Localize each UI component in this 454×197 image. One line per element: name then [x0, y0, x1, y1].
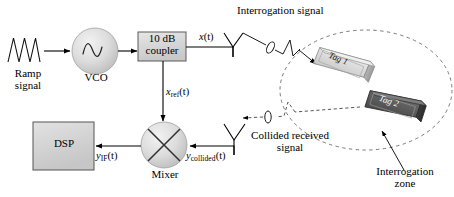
signal-xref-arg: (t): [179, 86, 189, 97]
signal-yif-arg: (t): [108, 150, 118, 161]
coupler-line1: 10 dB: [138, 33, 186, 45]
dsp-label: DSP: [47, 138, 81, 150]
collided-received-signal-label: Collided received signal: [238, 130, 342, 153]
collided-received-line1: Collided received: [238, 130, 342, 142]
signal-yif-of-t: yIF(t): [96, 150, 117, 163]
signal-ycollided-arg: (t): [216, 150, 226, 161]
interrogation-zone-line2: zone: [360, 178, 450, 190]
signal-x-of-t: x(t): [199, 31, 214, 42]
signal-x-arg: (t): [204, 31, 214, 42]
ramp-signal-label: Ramp signal: [4, 68, 52, 91]
interrogation-zone-label: Interrogation zone: [360, 166, 450, 189]
signal-yif-sub: IF: [101, 154, 108, 163]
signal-ycollided-of-t: ycollided(t): [186, 150, 226, 163]
coupler-line2: coupler: [138, 45, 186, 57]
line-coupler-to-tx-antenna: [186, 47, 233, 57]
figure-canvas: Ramp signal VCO 10 dB coupler DSP Mixer …: [0, 0, 454, 197]
collided-received-line2: signal: [238, 142, 342, 154]
collided-received-signal-path: [243, 102, 360, 123]
sawtooth-waveform-icon: [8, 38, 40, 62]
interrogation-zone-line1: Interrogation: [360, 166, 450, 178]
coupler-label: 10 dB coupler: [138, 33, 186, 56]
mixer-block: [141, 122, 187, 168]
signal-ycollided-sub: collided: [191, 154, 216, 163]
vco-label: VCO: [80, 72, 112, 84]
signal-xref-sub: ref: [171, 90, 180, 99]
mixer-label: Mixer: [147, 169, 183, 181]
vco-block: [72, 28, 118, 74]
ramp-signal-line1: Ramp: [4, 68, 52, 80]
signal-xref-of-t: xref(t): [166, 86, 189, 99]
ramp-signal-line2: signal: [4, 80, 52, 92]
interrogation-signal-label: Interrogation signal: [237, 5, 323, 17]
transmit-antenna-icon: [224, 33, 243, 57]
